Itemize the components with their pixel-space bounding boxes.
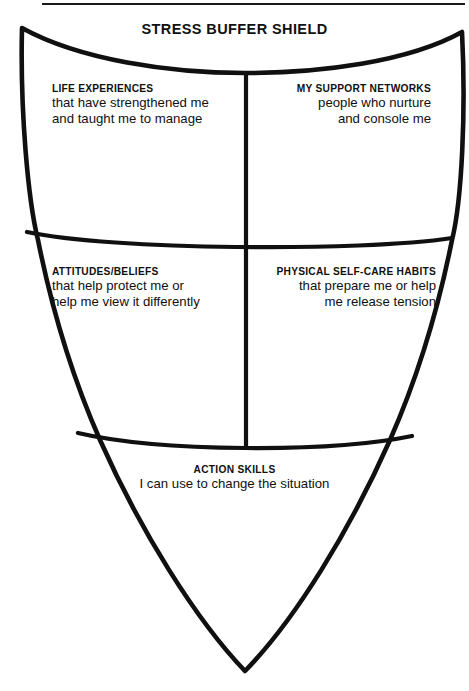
section-life-experiences-heading: LIFE EXPERIENCES <box>52 82 209 95</box>
section-support-networks-heading: MY SUPPORT NETWORKS <box>297 82 431 95</box>
section-support-networks: MY SUPPORT NETWORKS people who nurture a… <box>297 82 431 127</box>
section-physical-self-care-habits: PHYSICAL SELF-CARE HABITS that prepare m… <box>277 265 436 310</box>
section-life-experiences-line-2: and taught me to manage <box>52 111 209 127</box>
section-physical-self-care-habits-line-1: that prepare me or help <box>277 278 436 294</box>
section-attitudes-beliefs-line-2: help me view it differently <box>52 294 200 310</box>
section-attitudes-beliefs-line-1: that help protect me or <box>52 278 200 294</box>
section-support-networks-line-1: people who nurture <box>297 95 431 111</box>
stress-buffer-shield-worksheet: STRESS BUFFER SHIELD LIFE EXPERIENCES th… <box>0 0 469 691</box>
section-physical-self-care-habits-line-2: me release tension <box>277 294 436 310</box>
section-action-skills-heading: ACTION SKILLS <box>0 463 469 476</box>
section-attitudes-beliefs: ATTITUDES/BELIEFS that help protect me o… <box>52 265 200 310</box>
section-attitudes-beliefs-heading: ATTITUDES/BELIEFS <box>52 265 200 278</box>
section-support-networks-line-2: and console me <box>297 111 431 127</box>
section-life-experiences-line-1: that have strengthened me <box>52 95 209 111</box>
section-action-skills: ACTION SKILLS I can use to change the si… <box>0 463 469 492</box>
section-life-experiences: LIFE EXPERIENCES that have strengthened … <box>52 82 209 127</box>
section-physical-self-care-habits-heading: PHYSICAL SELF-CARE HABITS <box>277 265 436 278</box>
section-action-skills-line-1: I can use to change the situation <box>0 476 469 492</box>
